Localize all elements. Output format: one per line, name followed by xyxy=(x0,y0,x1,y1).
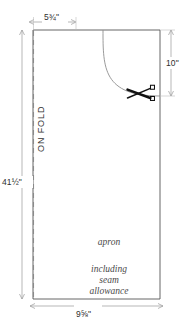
bottom-width-dimension-label: 9⅝" xyxy=(76,309,91,319)
left-height-dimension-label: 41½" xyxy=(2,177,22,187)
seam-note-line-3: allowance xyxy=(24,286,194,297)
piece-name-label: apron xyxy=(0,237,194,248)
top-width-dimension-label: 5¾" xyxy=(44,12,59,22)
pattern-outline xyxy=(33,30,160,299)
seam-note-line-1: including xyxy=(24,264,194,275)
seam-allowance-note: including seam allowance xyxy=(0,264,194,297)
on-fold-label: ON FOLD xyxy=(36,106,46,152)
right-height-dimension-label: 10" xyxy=(166,58,179,68)
seam-note-line-2: seam xyxy=(24,275,194,286)
